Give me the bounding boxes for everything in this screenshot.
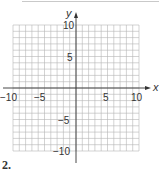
y-tick-5: 5 bbox=[67, 53, 73, 63]
problem-number: 2. bbox=[2, 158, 11, 172]
y-axis-arrow-icon bbox=[74, 12, 78, 18]
x-axis-label: x bbox=[153, 82, 159, 93]
x-tick-5: 5 bbox=[103, 93, 109, 103]
x-axis-arrow-icon bbox=[145, 86, 151, 90]
y-tick-neg5: −5 bbox=[58, 116, 69, 126]
x-tick-neg10: −10 bbox=[0, 93, 17, 103]
y-tick-10: 10 bbox=[63, 21, 74, 31]
coordinate-grid bbox=[0, 0, 159, 172]
x-tick-10: 10 bbox=[131, 93, 142, 103]
y-axis-label: y bbox=[66, 8, 72, 19]
x-tick-neg5: −5 bbox=[34, 93, 45, 103]
y-tick-neg10: −10 bbox=[53, 147, 70, 157]
